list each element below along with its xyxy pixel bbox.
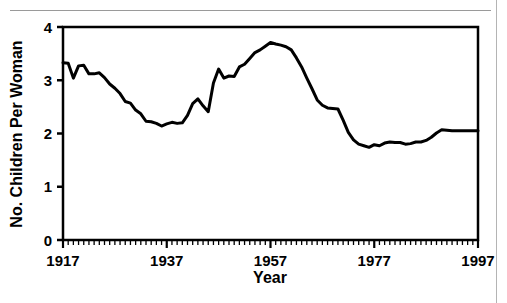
- x-tick-label-1977: 1977: [358, 252, 391, 269]
- fertility-line-chart: 01234 19171937195719771997 Year No. Chil…: [0, 0, 507, 303]
- y-axis-tick-labels: 01234: [44, 19, 53, 249]
- y-axis-title: No. Children Per Woman: [8, 40, 25, 227]
- plot-frame: [63, 27, 478, 240]
- y-tick-label-3: 3: [44, 72, 52, 89]
- x-axis-title: Year: [253, 269, 287, 286]
- x-tick-label-1917: 1917: [46, 252, 79, 269]
- x-tick-label-1997: 1997: [461, 252, 494, 269]
- data-line-total-fertility-rate: [63, 42, 478, 147]
- y-tick-label-1: 1: [44, 178, 52, 195]
- chart-page: 01234 19171937195719771997 Year No. Chil…: [0, 0, 507, 303]
- plot-border: [63, 27, 478, 240]
- x-axis-tick-labels: 19171937195719771997: [46, 252, 494, 269]
- y-tick-label-2: 2: [44, 125, 52, 142]
- y-tick-label-4: 4: [44, 19, 53, 36]
- x-tick-label-1937: 1937: [150, 252, 183, 269]
- x-tick-label-1957: 1957: [254, 252, 287, 269]
- series-group: [63, 42, 478, 147]
- y-tick-label-0: 0: [44, 232, 52, 249]
